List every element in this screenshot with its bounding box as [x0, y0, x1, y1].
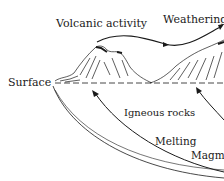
- uplift-arrow: [198, 90, 224, 120]
- mountain-illustration: [150, 40, 224, 83]
- volcano-illustration: [55, 46, 152, 83]
- igneous-rocks-label: Igneous rocks: [124, 108, 195, 118]
- weathering-label: Weathering: [163, 14, 224, 25]
- outer-cycle-arc: [53, 86, 224, 178]
- magma-label: Magma: [191, 150, 224, 161]
- surface-label: Surface: [8, 77, 51, 88]
- volcanic-activity-label: Volcanic activity: [56, 18, 147, 29]
- melting-label: Melting: [155, 136, 196, 147]
